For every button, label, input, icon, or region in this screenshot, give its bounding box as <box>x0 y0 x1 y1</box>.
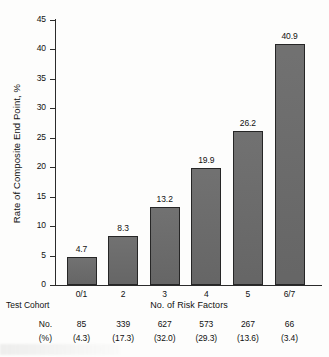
bar-value-label: 4.7 <box>62 245 102 254</box>
cohort-row-label-pct: (%) <box>6 333 52 343</box>
cohort-percent-cell: (17.3) <box>101 333 145 343</box>
y-axis-tick-label: 15 <box>6 192 46 201</box>
cohort-percent-cell: (3.4) <box>268 333 312 343</box>
cohort-count-cell: 267 <box>226 319 270 329</box>
bar-value-label: 13.2 <box>145 195 185 204</box>
y-axis-tick-label: 20 <box>6 162 46 171</box>
x-axis-tick-label: 2 <box>103 289 143 299</box>
bar <box>191 168 221 285</box>
x-axis-line <box>55 285 322 286</box>
cohort-percent-cell: (29.3) <box>184 333 228 343</box>
y-axis-tick-label: 25 <box>6 133 46 142</box>
bar-value-label: 26.2 <box>228 119 268 128</box>
y-axis-tick <box>50 285 56 286</box>
y-axis-title: Rate of Composite End Point, % <box>11 64 22 244</box>
y-axis-tick-label: 40 <box>6 44 46 53</box>
x-axis-title: No. of Risk Factors <box>56 300 322 311</box>
cohort-count-cell: 339 <box>101 319 145 329</box>
cohort-row-label-no: No. <box>6 319 52 329</box>
x-axis-tick-label: 3 <box>145 289 185 299</box>
bar <box>67 257 97 285</box>
bar <box>108 236 138 285</box>
cohort-count-cell: 573 <box>184 319 228 329</box>
y-axis-tick-label: 35 <box>6 74 46 83</box>
cohort-percent-cell: (13.6) <box>226 333 270 343</box>
x-axis-tick-label: 4 <box>186 289 226 299</box>
cohort-count-cell: 66 <box>268 319 312 329</box>
x-axis-tick-label: 5 <box>228 289 268 299</box>
bar-value-label: 8.3 <box>103 224 143 233</box>
y-axis-tick-label: 10 <box>6 221 46 230</box>
x-axis-tick-label: 0/1 <box>62 289 102 299</box>
cohort-count-cell: 85 <box>60 319 104 329</box>
bar-value-label: 19.9 <box>186 156 226 165</box>
bar-chart-figure: Rate of Composite End Point, % 051015202… <box>0 0 329 357</box>
bar-value-label: 40.9 <box>270 32 310 41</box>
bar <box>275 44 305 285</box>
x-axis-tick-label: 6/7 <box>270 289 310 299</box>
y-axis-tick-label: 5 <box>6 251 46 260</box>
bar <box>233 131 263 285</box>
cohort-percent-cell: (4.3) <box>60 333 104 343</box>
cohort-percent-cell: (32.0) <box>143 333 187 343</box>
y-axis-tick-label: 0 <box>6 280 46 289</box>
bar <box>150 207 180 285</box>
cohort-count-cell: 627 <box>143 319 187 329</box>
y-axis-tick-label: 45 <box>6 15 46 24</box>
y-axis-tick-label: 30 <box>6 103 46 112</box>
cohort-table-title: Test Cohort <box>6 300 49 310</box>
scan-artifact <box>0 344 120 355</box>
